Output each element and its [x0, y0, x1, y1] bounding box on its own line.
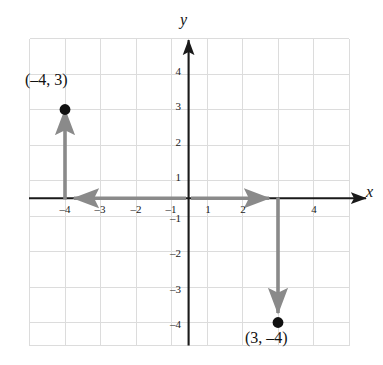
y-tick-minus1: –1 [159, 213, 181, 224]
y-tick-minus4: –4 [159, 319, 181, 330]
graph-figure: x y –4 –3 –2 –1 1 2 4 4 3 2 1 –1 –2 –3 –… [0, 0, 383, 365]
data-point-minus4-3[interactable] [60, 104, 71, 115]
y-tick-minus2: –2 [159, 248, 181, 259]
y-tick-1: 1 [163, 172, 181, 183]
x-tick-minus4: –4 [55, 204, 75, 215]
x-axis-label: x [366, 184, 373, 200]
point-label-3-minus4: (3, –4) [245, 330, 288, 346]
coordinate-plane-svg [0, 0, 383, 365]
point-label-minus4-3: (–4, 3) [25, 72, 68, 88]
y-tick-4: 4 [163, 66, 181, 77]
x-tick-minus2: –2 [126, 204, 146, 215]
x-tick-2: 2 [233, 204, 253, 215]
data-point-3-minus4[interactable] [273, 317, 284, 328]
y-tick-3: 3 [163, 101, 181, 112]
y-tick-2: 2 [163, 137, 181, 148]
x-tick-1: 1 [198, 204, 218, 215]
y-axis-label: y [180, 12, 187, 28]
y-tick-minus3: –3 [159, 284, 181, 295]
x-tick-4: 4 [304, 204, 324, 215]
x-tick-minus3: –3 [90, 204, 110, 215]
